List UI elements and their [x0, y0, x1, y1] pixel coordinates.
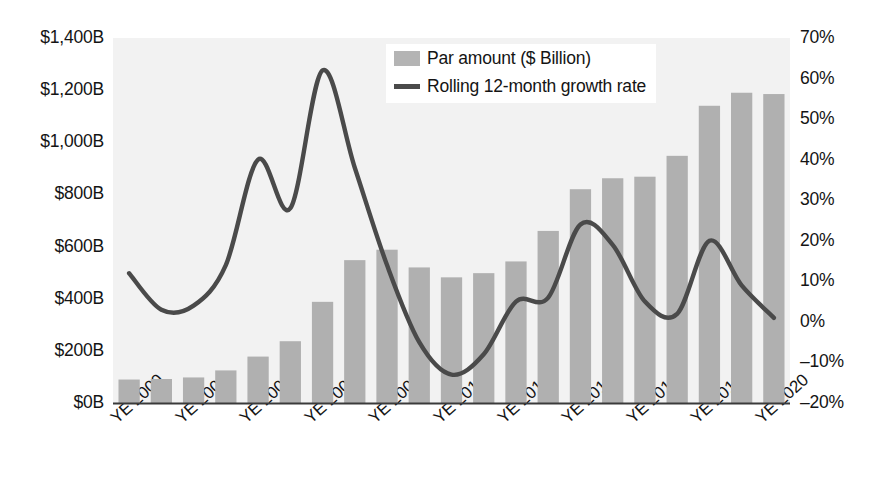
bar [473, 273, 494, 403]
bar [441, 277, 462, 403]
bar [667, 156, 688, 403]
bar [183, 377, 204, 403]
bar [215, 370, 236, 403]
bar [505, 261, 526, 403]
chart-container: $0B$200B$400B$600B$800B$1,000B$1,200B$1,… [0, 0, 891, 500]
legend-item-par-amount: Par amount ($ Billion) [394, 48, 646, 69]
legend-label-growth-rate: Rolling 12-month growth rate [427, 76, 646, 97]
bar-swatch-icon [394, 51, 420, 66]
bar-series-group [118, 93, 784, 403]
bar [763, 94, 784, 403]
bar [118, 380, 139, 403]
bar [247, 357, 268, 403]
bar [376, 250, 397, 403]
chart-legend: Par amount ($ Billion) Rolling 12-month … [386, 44, 656, 103]
bar [409, 267, 430, 403]
bar [344, 260, 365, 403]
line-swatch-icon [394, 84, 420, 89]
bar [312, 302, 333, 403]
bar [151, 379, 172, 403]
bar [602, 178, 623, 403]
bar [538, 231, 559, 403]
bar [280, 341, 301, 403]
legend-label-par-amount: Par amount ($ Billion) [427, 48, 591, 69]
bar [731, 93, 752, 403]
legend-item-growth-rate: Rolling 12-month growth rate [394, 76, 646, 97]
